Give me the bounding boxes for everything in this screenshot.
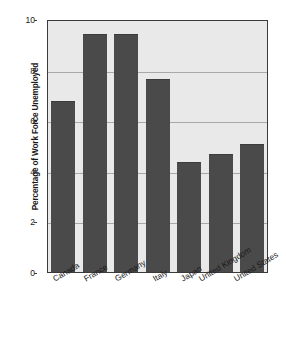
- plot-area: [47, 20, 268, 273]
- y-axis-title: Percentage of Work Force Unemployed: [31, 29, 40, 244]
- y-tick-label-8: 8: [9, 66, 35, 76]
- y-tick-mark-0: [34, 273, 37, 274]
- y-tick-label-6: 6: [9, 116, 35, 126]
- bar-france: [83, 34, 107, 272]
- y-tick-mark-10: [34, 20, 37, 21]
- y-tick-mark-4: [34, 172, 37, 173]
- y-tick-label-4: 4: [9, 167, 35, 177]
- y-tick-mark-6: [34, 121, 37, 122]
- bar-italy: [146, 79, 170, 272]
- y-tick-label-10: 10: [9, 15, 35, 25]
- y-tick-label-2: 2: [9, 217, 35, 227]
- bar-germany: [114, 34, 138, 272]
- bar-series: [48, 21, 267, 272]
- x-axis-tick-group: Canada France Germany Italy Japan United…: [47, 275, 268, 345]
- y-tick-mark-2: [34, 222, 37, 223]
- bar-canada: [51, 101, 75, 272]
- bar-chart-figure: Percentage of Work Force Unemployed 0 2 …: [0, 0, 286, 349]
- y-tick-label-0: 0: [9, 268, 35, 278]
- y-tick-mark-8: [34, 71, 37, 72]
- bar-japan: [177, 162, 201, 272]
